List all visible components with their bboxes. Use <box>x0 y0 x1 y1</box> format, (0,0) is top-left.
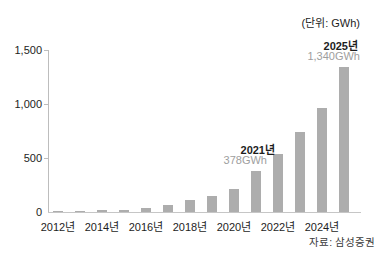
x-axis-line <box>48 212 361 213</box>
y-tick-label-1,500: 1,500 <box>2 44 42 56</box>
y-tick-mark <box>44 158 48 159</box>
y-axis-line <box>48 50 49 212</box>
bar-2015년 <box>119 210 129 212</box>
x-tick-label-2016년: 2016년 <box>124 218 168 234</box>
source-note: 자료: 삼성증권 <box>309 234 375 249</box>
bar-2018년 <box>185 200 195 212</box>
x-tick-label-2020년: 2020년 <box>212 218 256 234</box>
y-tick-label-500: 500 <box>2 152 42 164</box>
chart: (단위: GWh) 05001,0001,500 2012년2014년2016년… <box>0 0 380 256</box>
bar-2017년 <box>163 205 173 212</box>
bar-2024년 <box>317 108 327 212</box>
bar-2020년 <box>229 189 239 212</box>
x-tick-label-2012년: 2012년 <box>36 218 80 234</box>
y-tick-mark <box>44 50 48 51</box>
bar-2023년 <box>295 132 305 212</box>
annotation-2025-value: 1,340GWh <box>307 50 360 62</box>
x-tick-label-2018년: 2018년 <box>168 218 212 234</box>
x-tick-label-2022년: 2022년 <box>256 218 300 234</box>
y-tick-label-1,000: 1,000 <box>2 98 42 110</box>
bar-2021년 <box>251 171 261 212</box>
x-tick-label-2024년: 2024년 <box>300 218 344 234</box>
bar-2025년 <box>339 67 349 212</box>
unit-note: (단위: GWh) <box>302 14 361 30</box>
bar-2022년 <box>273 154 283 212</box>
bar-2013년 <box>75 211 85 212</box>
bar-2019년 <box>207 196 217 212</box>
y-tick-mark <box>44 104 48 105</box>
annotation-2021-value: 378GWh <box>224 154 267 166</box>
x-tick-label-2014년: 2014년 <box>80 218 124 234</box>
bar-2014년 <box>97 210 107 212</box>
bar-2012년 <box>53 211 63 212</box>
y-tick-label-0: 0 <box>2 206 42 218</box>
bar-2016년 <box>141 208 151 212</box>
